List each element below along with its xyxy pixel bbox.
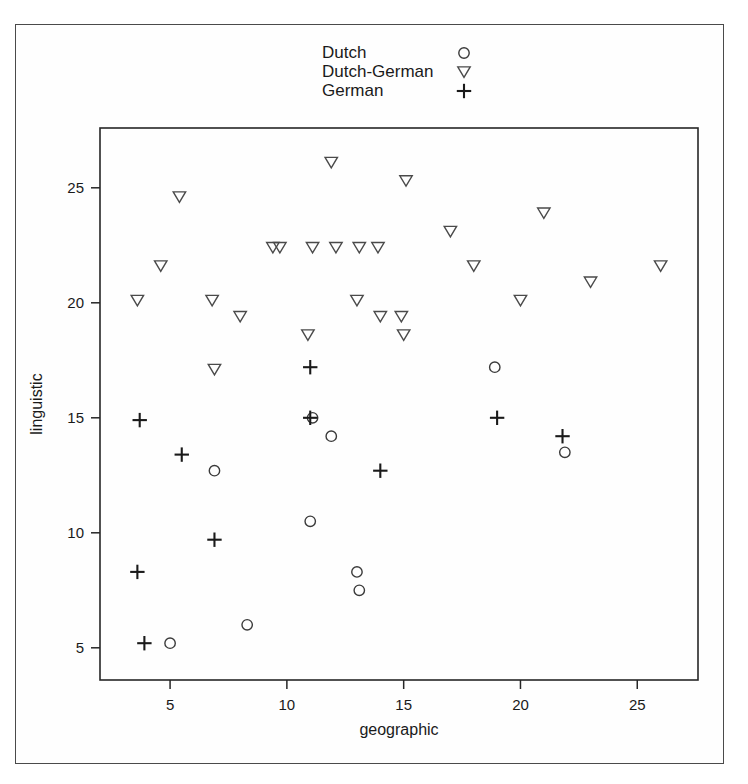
data-point-triangle <box>654 261 666 271</box>
data-point-triangle <box>372 243 384 253</box>
circle-icon <box>459 48 469 58</box>
data-point-triangle <box>514 295 526 305</box>
x-tick-label: 20 <box>512 696 529 713</box>
x-tick-label: 10 <box>279 696 296 713</box>
data-point-plus <box>137 636 151 650</box>
data-point-triangle <box>353 243 365 253</box>
data-point-triangle <box>374 312 386 322</box>
data-point-circle <box>165 638 175 648</box>
data-markers-layer <box>130 157 667 650</box>
data-point-plus <box>207 533 221 547</box>
legend-label-dutch-german: Dutch-German <box>322 62 433 81</box>
data-point-triangle <box>538 208 550 218</box>
y-tick-label: 20 <box>67 294 84 311</box>
x-tick-label: 25 <box>629 696 646 713</box>
data-point-triangle <box>234 312 246 322</box>
data-point-triangle <box>584 277 596 287</box>
data-point-triangle <box>208 364 220 374</box>
x-tick-label: 15 <box>395 696 412 713</box>
data-point-circle <box>326 431 336 441</box>
data-point-triangle <box>173 192 185 202</box>
data-point-circle <box>352 567 362 577</box>
data-point-circle <box>242 620 252 630</box>
x-axis-title: geographic <box>359 721 438 738</box>
data-point-triangle <box>444 226 456 236</box>
data-point-triangle <box>397 330 409 340</box>
data-point-triangle <box>155 261 167 271</box>
x-tick-label: 5 <box>166 696 174 713</box>
triangle-down-icon <box>458 67 470 77</box>
data-point-plus <box>130 565 144 579</box>
y-tick-label: 5 <box>76 639 84 656</box>
plot-frame <box>100 128 698 680</box>
plus-icon <box>457 84 471 98</box>
data-point-plus <box>373 464 387 478</box>
data-point-triangle <box>395 312 407 322</box>
data-point-plus <box>303 360 317 374</box>
data-point-circle <box>305 516 315 526</box>
data-point-triangle <box>351 295 363 305</box>
series-dutch <box>165 362 570 648</box>
data-point-triangle <box>325 157 337 167</box>
data-point-triangle <box>330 243 342 253</box>
plot-box <box>100 128 698 680</box>
figure-page: 510152025 510152025 DutchDutch-GermanGer… <box>0 0 748 784</box>
data-point-plus <box>133 413 147 427</box>
data-point-circle <box>354 585 364 595</box>
data-point-triangle <box>302 330 314 340</box>
series-german <box>130 360 570 650</box>
y-axis-ticks: 510152025 <box>67 179 100 656</box>
legend-label-german: German <box>322 81 383 100</box>
data-point-triangle <box>306 243 318 253</box>
scatter-plot-figure: 510152025 510152025 DutchDutch-GermanGer… <box>0 0 748 784</box>
legend: DutchDutch-GermanGerman <box>322 43 471 100</box>
data-point-triangle <box>131 295 143 305</box>
data-point-plus <box>490 411 504 425</box>
y-tick-label: 25 <box>67 179 84 196</box>
y-axis-title: linguistic <box>28 373 45 434</box>
data-point-triangle <box>468 261 480 271</box>
data-point-circle <box>490 362 500 372</box>
y-tick-label: 15 <box>67 409 84 426</box>
legend-label-dutch: Dutch <box>322 43 366 62</box>
data-point-plus <box>175 447 189 461</box>
x-axis-ticks: 510152025 <box>166 680 646 713</box>
data-point-triangle <box>400 176 412 186</box>
data-point-circle <box>209 466 219 476</box>
series-dutch-german <box>131 157 667 374</box>
data-point-triangle <box>206 295 218 305</box>
y-tick-label: 10 <box>67 524 84 541</box>
data-point-circle <box>560 447 570 457</box>
data-point-plus <box>555 429 569 443</box>
plot-canvas: 510152025 510152025 DutchDutch-GermanGer… <box>0 0 748 784</box>
